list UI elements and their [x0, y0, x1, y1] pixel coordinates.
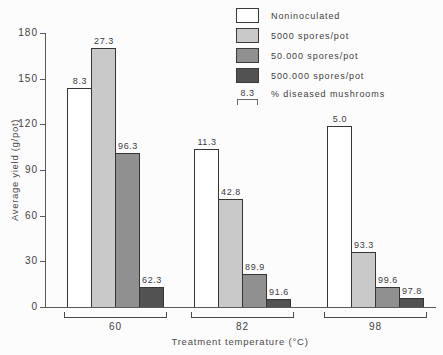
- legend-note-number: 8.3: [236, 88, 259, 98]
- diseased-pct-label: 97.8: [392, 286, 432, 296]
- legend-item-5000-spores: 5000 spores/pot: [236, 28, 385, 43]
- legend-swatch-noninoculated: [236, 8, 259, 23]
- y-tick-label: 60: [10, 210, 38, 221]
- bar-series-0-group-82: [194, 149, 219, 307]
- y-tick-label: 180: [10, 27, 38, 38]
- bar-series-0-group-98: [327, 126, 352, 307]
- legend-swatch-500000-spores: [236, 68, 259, 83]
- bar-series-0-group-60: [67, 88, 92, 307]
- group-bracket: [64, 312, 167, 318]
- diseased-pct-label: 62.3: [132, 275, 172, 285]
- legend-item-500000-spores: 500.000 spores/pot: [236, 68, 385, 83]
- y-tick-mark: [40, 124, 45, 125]
- legend-note-value: 8.3: [240, 88, 254, 98]
- category-label: 60: [64, 321, 167, 332]
- y-tick-mark: [40, 79, 45, 80]
- y-tick-label: 30: [10, 255, 38, 266]
- y-tick-mark: [40, 307, 45, 308]
- diseased-pct-label: 91.6: [259, 287, 299, 297]
- bar-series-1-group-82: [218, 199, 243, 307]
- bar-series-3-group-82: [266, 299, 291, 307]
- y-tick-mark: [40, 170, 45, 171]
- category-label: 98: [324, 321, 427, 332]
- y-tick-mark: [40, 33, 45, 34]
- diseased-pct-label: 11.3: [187, 137, 227, 147]
- y-tick-label: 0: [10, 301, 38, 312]
- legend-item-noninoculated: Noninoculated: [236, 8, 385, 23]
- legend: Noninoculated 5000 spores/pot 50.000 spo…: [236, 8, 385, 111]
- diseased-pct-label: 5.0: [320, 114, 360, 124]
- diseased-pct-label: 96.3: [108, 141, 148, 151]
- diseased-pct-label: 93.3: [344, 240, 384, 250]
- legend-note-label: % diseased mushrooms: [271, 89, 385, 99]
- bar-series-3-group-60: [139, 287, 164, 307]
- legend-note: 8.3 % diseased mushrooms: [236, 88, 385, 106]
- bar-series-1-group-60: [91, 48, 116, 307]
- group-bracket: [191, 312, 294, 318]
- legend-swatch-5000-spores: [236, 28, 259, 43]
- group-bracket: [324, 312, 427, 318]
- diseased-pct-label: 89.9: [235, 262, 275, 272]
- legend-label-5000-spores: 5000 spores/pot: [271, 31, 349, 41]
- note-bracket-icon: [237, 99, 258, 105]
- diseased-pct-label: 99.6: [368, 275, 408, 285]
- y-tick-mark: [40, 216, 45, 217]
- legend-label-50000-spores: 50.000 spores/pot: [271, 51, 358, 61]
- legend-item-50000-spores: 50.000 spores/pot: [236, 48, 385, 63]
- category-label: 82: [191, 321, 294, 332]
- legend-swatch-50000-spores: [236, 48, 259, 63]
- y-tick-mark: [40, 261, 45, 262]
- bar-series-3-group-98: [399, 298, 424, 307]
- bar-chart-figure: Average yield (g/pot) 8.311.35.027.342.8…: [0, 0, 443, 355]
- y-tick-label: 150: [10, 73, 38, 84]
- y-tick-label: 90: [10, 164, 38, 175]
- x-axis-title: Treatment temperature (°C): [45, 336, 435, 347]
- y-tick-label: 120: [10, 118, 38, 129]
- diseased-pct-label: 42.8: [211, 187, 251, 197]
- diseased-pct-label: 27.3: [84, 36, 124, 46]
- legend-label-500000-spores: 500.000 spores/pot: [271, 71, 364, 81]
- legend-label-noninoculated: Noninoculated: [271, 11, 340, 21]
